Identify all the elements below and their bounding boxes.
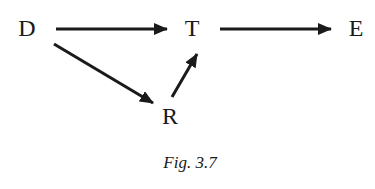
edge-r-to-t [172, 54, 197, 97]
node-d: D [18, 15, 35, 41]
diagram-canvas: D T E R Fig. 3.7 [0, 0, 375, 189]
node-r: R [162, 103, 178, 129]
node-e: E [349, 15, 364, 41]
node-t: T [185, 15, 200, 41]
edge-d-to-r [54, 44, 153, 103]
figure-caption: Fig. 3.7 [162, 153, 218, 172]
